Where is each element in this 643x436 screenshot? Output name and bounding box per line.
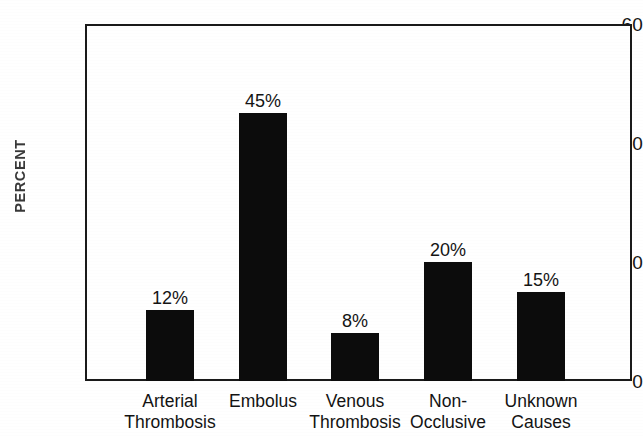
y-axis-title: PERCENT bbox=[12, 121, 28, 231]
bar-chart-figure: PERCENT 60 40 20 0 12% 45% 8% 20% 15% Ar… bbox=[0, 0, 643, 436]
x-category-line-2: Causes bbox=[478, 412, 604, 433]
x-category-line-2: Thrombosis bbox=[100, 412, 240, 433]
bar-embolus bbox=[239, 113, 287, 381]
bar-value-non-occlusive: 20% bbox=[408, 241, 488, 259]
bar-value-embolus: 45% bbox=[223, 92, 303, 110]
x-category-label-unknown-causes: Unknown Causes bbox=[478, 391, 604, 432]
bar-arterial-thrombosis bbox=[146, 310, 194, 381]
bar-venous-thrombosis bbox=[331, 333, 379, 381]
bar-value-arterial-thrombosis: 12% bbox=[130, 289, 210, 307]
bar-unknown-causes bbox=[517, 292, 565, 381]
bar-value-venous-thrombosis: 8% bbox=[315, 312, 395, 330]
x-category-line-1: Unknown bbox=[478, 391, 604, 412]
bar-value-unknown-causes: 15% bbox=[501, 271, 581, 289]
bar-non-occlusive bbox=[424, 262, 472, 381]
